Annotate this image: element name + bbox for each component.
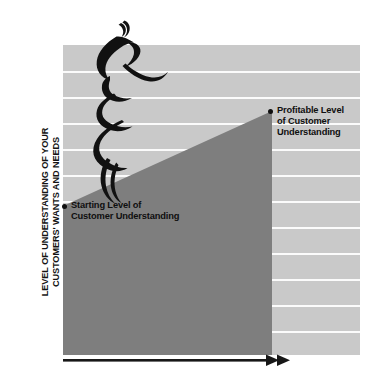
annotation-profitable-level: Profitable Level of Customer Understandi… xyxy=(268,105,344,139)
annotation-profit-line-1: Profitable Level xyxy=(277,105,344,115)
diagram-canvas: LEVEL OF UNDERSTANDING OF YOUR CUSTOMERS… xyxy=(0,0,384,381)
marker-dot-icon xyxy=(268,109,273,114)
annotation-start-line-1: Starting Level of xyxy=(71,200,141,210)
annotation-profitable-level-text: Profitable Level of Customer Understandi… xyxy=(277,105,344,139)
annotation-start-line-2: Customer Understanding xyxy=(71,211,179,221)
marker-dot-icon xyxy=(62,204,67,209)
rightward-time-arrow-icon xyxy=(60,352,300,372)
annotation-profit-line-2: of Customer xyxy=(277,116,330,126)
annotation-starting-level-text: Starting Level of Customer Understanding xyxy=(71,200,179,222)
annotation-starting-level: Starting Level of Customer Understanding xyxy=(62,200,179,222)
y-axis-label-line-2: CUSTOMERS' WANTS AND NEEDS xyxy=(51,128,63,297)
annotation-profit-line-3: Understanding xyxy=(277,127,341,137)
y-axis-label-line-1: LEVEL OF UNDERSTANDING OF YOUR xyxy=(40,128,52,297)
